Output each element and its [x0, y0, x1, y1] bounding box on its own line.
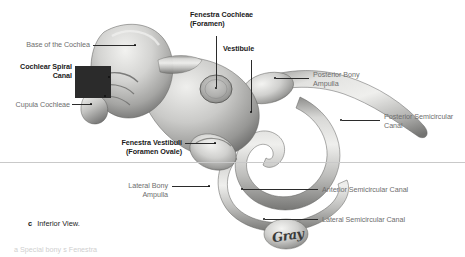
label-cochlear-spiral-canal: Cochlear Spiral Canal	[8, 62, 72, 80]
leader-lateral-semicircular-canal	[265, 219, 318, 220]
figure-caption-letter: c	[28, 219, 32, 228]
label-vestibule: Vestibule	[223, 44, 283, 53]
leader-fenestra-vestibuli	[185, 143, 216, 144]
label-posterior-semicircular-canal: Posterior Semicircular Canal	[384, 112, 465, 130]
leader-fenestra-cochleae	[216, 36, 217, 87]
label-lateral-semicircular-canal: Lateral Semicircular Canal	[322, 215, 452, 224]
figure-caption-text: Inferior View.	[37, 219, 80, 228]
label-base-of-the-cochlea: Base of the Cochlea	[6, 40, 90, 49]
leader-cochlear-spiral-canal	[75, 66, 111, 98]
figure-panel: Base of the Cochlea Cochlear Spiral Cana…	[0, 0, 465, 257]
label-fenestra-cochleae: Fenestra Cochleae (Foramen)	[190, 10, 282, 28]
figure-caption: c Inferior View.	[28, 219, 80, 228]
leader-posterior-semicircular-canal	[342, 120, 380, 121]
label-lateral-bony-ampulla: Lateral Bony Ampulla	[106, 181, 168, 199]
leader-cupula-cochleae	[72, 104, 92, 105]
label-fenestra-vestibuli: Fenestra Vestibuli (Foramen Ovale)	[96, 138, 182, 156]
cropped-bottom-text: a Special bony s Fenestra	[14, 246, 97, 254]
leader-vestibule	[251, 60, 252, 112]
label-cupula-cochleae: Cupula Cochleae	[2, 100, 70, 109]
label-anterior-semicircular-canal: Anterior Semicircular Canal	[322, 185, 452, 194]
label-posterior-bony-ampulla: Posterior Bony Ampulla	[313, 70, 393, 88]
leader-posterior-bony-ampulla	[276, 78, 309, 79]
leader-anterior-semicircular-canal	[243, 189, 318, 190]
leader-lateral-bony-ampulla	[172, 186, 210, 187]
divider-rule	[0, 162, 465, 163]
cropped-bottom-text-strip: a Special bony s Fenestra	[0, 246, 465, 257]
leader-base-of-the-cochlea	[93, 45, 136, 46]
